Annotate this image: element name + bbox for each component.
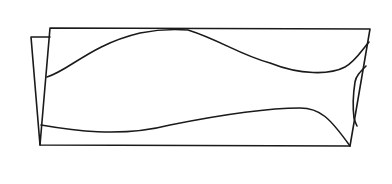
panel-diagram <box>0 0 392 184</box>
diagram-canvas <box>0 0 392 184</box>
